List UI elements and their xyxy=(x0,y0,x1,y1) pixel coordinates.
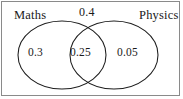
physics-set-label: Physics xyxy=(139,9,179,22)
venn-diagram-figure: Maths Physics 0.4 0.3 0.25 0.05 xyxy=(0,0,183,99)
maths-only-region-value: 0.3 xyxy=(28,47,43,59)
outside-region-value: 0.4 xyxy=(79,6,95,18)
physics-only-region-value: 0.05 xyxy=(117,47,138,59)
intersection-region-value: 0.25 xyxy=(70,47,91,59)
maths-set-label: Maths xyxy=(14,9,46,22)
